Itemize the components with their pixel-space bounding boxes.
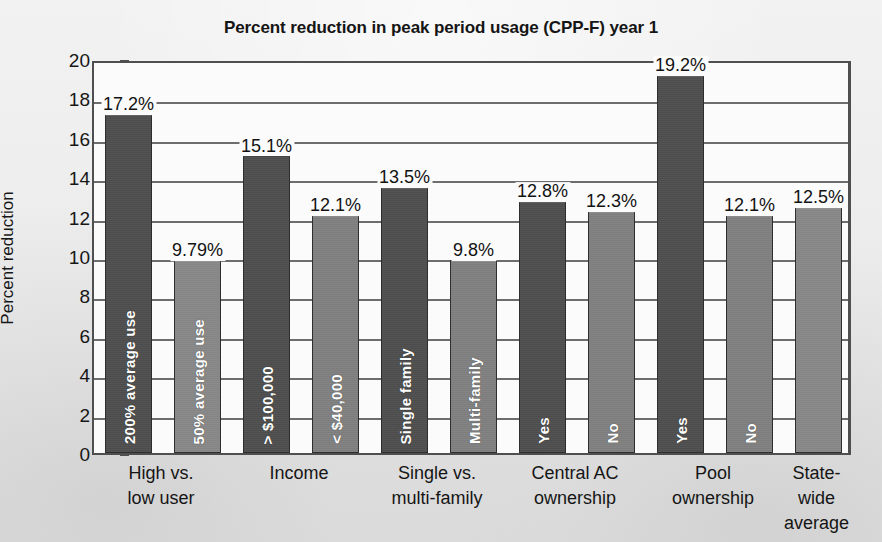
gridline xyxy=(94,181,848,183)
bar-value-label: 15.1% xyxy=(239,137,294,157)
bar-value-label: 13.5% xyxy=(377,168,432,188)
x-axis-category-label: Income xyxy=(230,461,368,486)
bar-value-label: 17.2% xyxy=(101,95,156,115)
bar-inner-label: No xyxy=(603,423,620,444)
bar: Single family xyxy=(381,187,428,453)
y-axis-tick-label: 0 xyxy=(44,444,90,466)
bar: Yes xyxy=(519,201,566,453)
x-axis-category-line: average xyxy=(782,511,851,536)
gridline xyxy=(94,142,848,144)
x-axis-category-line: multi-family xyxy=(368,486,506,511)
y-axis-tick-label: 4 xyxy=(44,365,90,387)
bar-inner-label: Multi-family xyxy=(465,357,482,444)
bar: Yes xyxy=(657,75,704,453)
x-axis-category-line: Income xyxy=(230,461,368,486)
bar-value-label: 19.2% xyxy=(653,56,708,76)
x-axis-category-line: Pool xyxy=(644,461,782,486)
y-axis-tick-label: 12 xyxy=(44,208,90,230)
bar xyxy=(795,207,842,453)
x-axis-category-line: High vs. xyxy=(92,461,230,486)
bar: > $100,000 xyxy=(243,156,290,453)
bar-value-label: 12.1% xyxy=(308,196,363,216)
bar-inner-label: 50% average use xyxy=(189,319,206,444)
bar: No xyxy=(588,211,635,453)
y-axis-tick-label: 20 xyxy=(44,50,90,72)
x-axis-category-line: ownership xyxy=(506,486,644,511)
bar: 200% average use xyxy=(105,114,152,453)
bar-inner-label: Single family xyxy=(396,348,413,444)
y-axis: 20181614121086420 xyxy=(36,61,90,455)
bar: < $40,000 xyxy=(312,215,359,453)
bar-value-label: 12.1% xyxy=(722,196,777,216)
bar-chart: Percent reduction in peak period usage (… xyxy=(0,0,882,542)
y-axis-tick-label: 2 xyxy=(44,405,90,427)
y-axis-tick-label: 6 xyxy=(44,326,90,348)
x-axis-category-line: ownership xyxy=(644,486,782,511)
bar-inner-label: Yes xyxy=(534,417,551,444)
bar: 50% average use xyxy=(174,260,221,453)
bar-inner-label: No xyxy=(741,423,758,444)
bar: Multi-family xyxy=(450,260,497,453)
x-axis-category-label: Poolownership xyxy=(644,461,782,511)
chart-title: Percent reduction in peak period usage (… xyxy=(0,18,882,38)
y-axis-tick-label: 14 xyxy=(44,168,90,190)
x-axis-category-line: low user xyxy=(92,486,230,511)
x-axis-category-line: Central AC xyxy=(506,461,644,486)
bar-value-label: 12.8% xyxy=(515,182,570,202)
gridline xyxy=(94,102,848,104)
bar-inner-label: > $100,000 xyxy=(258,366,275,445)
bar-inner-label: < $40,000 xyxy=(327,374,344,444)
y-axis-tick-label: 10 xyxy=(44,247,90,269)
x-axis-category-labels: High vs.low userIncomeSingle vs.multi-fa… xyxy=(92,461,851,527)
y-axis-tick-label: 16 xyxy=(44,129,90,151)
x-axis-category-label: High vs.low user xyxy=(92,461,230,511)
bar-value-label: 9.8% xyxy=(451,241,496,261)
bar-value-label: 12.3% xyxy=(584,192,639,212)
bar: No xyxy=(726,215,773,453)
x-axis-category-label: Central ACownership xyxy=(506,461,644,511)
bar-value-label: 12.5% xyxy=(791,188,846,208)
bar-value-label: 9.79% xyxy=(170,241,225,261)
x-axis-category-line: Single vs. xyxy=(368,461,506,486)
x-axis-category-label: Single vs.multi-family xyxy=(368,461,506,511)
x-axis-category-label: State-wideaverage xyxy=(782,461,851,536)
y-axis-tick-label: 18 xyxy=(44,89,90,111)
y-axis-title: Percent reduction xyxy=(0,61,24,455)
x-axis-category-line: State-wide xyxy=(782,461,851,511)
plot-area: 200% average use17.2%50% average use9.79… xyxy=(92,61,851,455)
y-axis-tick-label: 8 xyxy=(44,286,90,308)
bar-inner-label: 200% average use xyxy=(120,310,137,444)
bar-inner-label: Yes xyxy=(672,417,689,444)
